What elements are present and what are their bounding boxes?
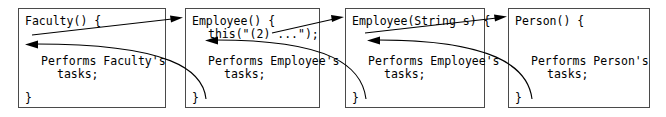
employee-this-call: this("(2) ...");	[208, 28, 319, 41]
faculty-closing-brace: }	[25, 92, 32, 105]
faculty-signature: Faculty() {	[25, 15, 101, 28]
person-closing-brace: }	[515, 92, 522, 105]
employee-string-signature: Employee(String s) {	[352, 15, 490, 28]
person-body-line-2: tasks;	[547, 68, 589, 81]
employee-string-closing-brace: }	[352, 92, 359, 105]
code-box-employee-no-arg: Employee() { this("(2) ..."); Performs E…	[185, 8, 320, 108]
constructor-chaining-diagram: Faculty() { Performs Faculty's tasks; } …	[0, 0, 666, 117]
code-box-person: Person() { Performs Person's tasks; }	[508, 8, 650, 108]
employee-string-body-line-2: tasks;	[384, 68, 426, 81]
code-box-employee-string: Employee(String s) { Performs Employee's…	[345, 8, 485, 108]
person-signature: Person() {	[515, 15, 584, 28]
employee-closing-brace: }	[192, 92, 199, 105]
faculty-body-line-2: tasks;	[57, 68, 99, 81]
employee-body-line-2: tasks;	[224, 68, 266, 81]
code-box-faculty: Faculty() { Performs Faculty's tasks; }	[18, 8, 166, 108]
